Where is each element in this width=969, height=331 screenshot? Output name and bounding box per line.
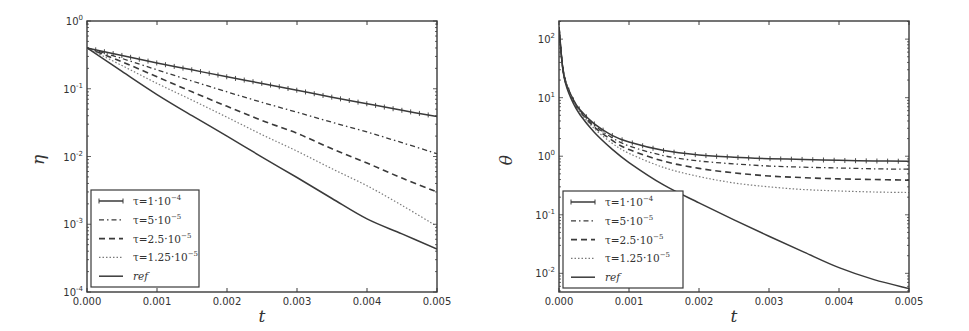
- x-tick-label: 0.004: [353, 296, 382, 307]
- figure: 0.0000.0010.0020.0030.0040.00510010-110-…: [0, 0, 969, 331]
- x-tick-label: 0.002: [213, 296, 242, 307]
- y-tick-label: 100: [66, 14, 83, 27]
- x-axis-label: t: [731, 306, 738, 326]
- x-tick-label: 0.003: [755, 296, 784, 307]
- legend: τ=1·10−4τ=5·10−5τ=2.5·10−5τ=1.25·10−5ref: [91, 190, 199, 287]
- y-tick-label: 102: [538, 32, 555, 45]
- eta-plot-panel: 0.0000.0010.0020.0030.0040.00510010-110-…: [28, 14, 451, 326]
- x-tick-label: 0.002: [685, 296, 714, 307]
- y-tick-label: 100: [538, 149, 555, 162]
- y-tick-label: 10-3: [63, 217, 83, 230]
- legend-label-4: ref: [133, 270, 150, 282]
- y-tick-label: 101: [538, 91, 555, 104]
- x-tick-label: 0.005: [423, 296, 452, 307]
- x-tick-label: 0.001: [143, 296, 172, 307]
- x-tick-label: 0.005: [895, 296, 924, 307]
- x-tick-label: 0.000: [545, 296, 574, 307]
- theta-plot-panel: 0.0000.0010.0020.0030.0040.0051021011001…: [496, 21, 923, 326]
- series-line-0: [559, 27, 909, 161]
- y-tick-label: 10-1: [63, 82, 83, 95]
- y-tick-label: 10-1: [535, 208, 555, 221]
- y-tick-label: 10-2: [535, 266, 555, 279]
- x-tick-label: 0.004: [825, 296, 854, 307]
- series-line-1: [87, 48, 437, 154]
- y-tick-label: 10-2: [63, 150, 83, 163]
- series-line-3: [559, 27, 909, 192]
- x-axis-label: t: [259, 306, 266, 326]
- legend-label-4: ref: [605, 271, 622, 283]
- x-tick-label: 0.000: [73, 296, 102, 307]
- x-tick-label: 0.001: [615, 296, 644, 307]
- x-tick-label: 0.003: [283, 296, 312, 307]
- legend: τ=1·10−4τ=5·10−5τ=2.5·10−5τ=1.25·10−5ref: [563, 191, 683, 288]
- y-axis-label: η: [28, 154, 48, 165]
- series-line-2: [87, 48, 437, 192]
- y-axis-label: θ: [496, 155, 516, 165]
